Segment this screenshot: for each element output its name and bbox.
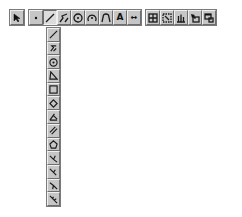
window-icon: [204, 13, 214, 23]
flyout-square-button[interactable]: [47, 83, 60, 97]
text-icon: A: [117, 13, 124, 22]
pentagon-icon: [49, 140, 58, 149]
diamond-icon: [49, 99, 58, 108]
flyout-parallel-button[interactable]: [47, 124, 60, 138]
toolbar-group-selection: [9, 9, 25, 26]
view-button-2[interactable]: [160, 10, 174, 25]
polygon-icon: [59, 13, 69, 23]
toolbar-group-construction: A ↔: [28, 9, 142, 26]
zigzag-icon: [49, 44, 58, 53]
main-toolbar: A ↔: [9, 9, 217, 26]
arrow-pointer-icon: [12, 13, 22, 23]
flyout-bisector-button-1[interactable]: [47, 151, 60, 165]
arc-tool-button[interactable]: [85, 10, 99, 25]
conic-icon: [101, 13, 111, 23]
hand-window-icon: [190, 13, 200, 23]
line-icon: [49, 30, 58, 39]
arc-icon: [87, 13, 97, 23]
bisector-icon: [49, 154, 58, 163]
flyout-circle-point-button[interactable]: [47, 55, 60, 69]
line-tool-flyout: [46, 27, 61, 207]
measure-tool-button[interactable]: ↔: [127, 10, 141, 25]
view-button-5[interactable]: [202, 10, 216, 25]
flyout-triangle-button[interactable]: [47, 69, 60, 83]
triangle-icon: [49, 71, 58, 80]
toolbar-group-view: [145, 9, 217, 26]
grid-view-icon: [148, 13, 158, 23]
view-button-1[interactable]: [146, 10, 160, 25]
polygon-tool-button[interactable]: [57, 10, 71, 25]
line-icon: [45, 13, 55, 23]
circle-center-tool-button[interactable]: [71, 10, 85, 25]
flyout-pentagon-button[interactable]: [47, 138, 60, 152]
flyout-zigzag-button[interactable]: [47, 42, 60, 56]
grid-select-icon: [162, 13, 172, 23]
view-button-3[interactable]: [174, 10, 188, 25]
measure-icon: ↔: [131, 14, 138, 22]
flyout-bisector-button-4[interactable]: [47, 192, 60, 206]
point-icon: [31, 13, 41, 23]
flyout-bisector-button-2[interactable]: [47, 165, 60, 179]
angle-icon: [49, 112, 58, 121]
circle-center-icon: [73, 13, 83, 23]
flyout-angle-button[interactable]: [47, 110, 60, 124]
bisector-icon: [49, 167, 58, 176]
flyout-bisector-button-3[interactable]: [47, 179, 60, 193]
point-tool-button[interactable]: [29, 10, 43, 25]
text-tool-button[interactable]: A: [113, 10, 127, 25]
circle-point-icon: [49, 58, 58, 67]
flyout-diamond-button[interactable]: [47, 96, 60, 110]
parallel-icon: [49, 126, 58, 135]
view-button-4[interactable]: [188, 10, 202, 25]
flyout-line-button[interactable]: [47, 28, 60, 42]
line-tool-button[interactable]: [43, 10, 57, 25]
square-icon: [49, 85, 58, 94]
bisector-icon: [49, 195, 58, 204]
bisector-icon: [49, 181, 58, 190]
conic-tool-button[interactable]: [99, 10, 113, 25]
chart-icon: [176, 13, 186, 23]
pointer-tool-button[interactable]: [10, 10, 24, 25]
